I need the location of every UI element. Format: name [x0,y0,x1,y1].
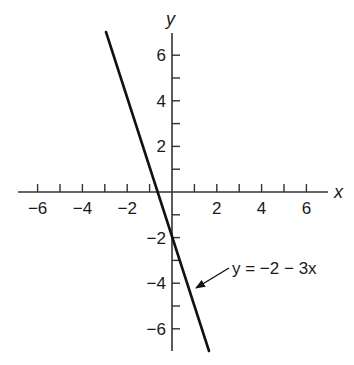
equation-label: y = −2 − 3x [232,259,317,278]
line-chart: −6 −4 −2 2 4 6 x 6 4 2 −2 −4 −6 y [0,0,354,365]
x-tick-label: 6 [302,199,311,218]
x-axis: −6 −4 −2 2 4 6 x [18,182,344,218]
y-tick-label: −2 [147,229,166,248]
y-tick-label: −4 [147,274,166,293]
x-tick-label: −2 [118,199,137,218]
x-tick-label: 2 [212,199,221,218]
x-axis-label: x [333,182,344,202]
y-tick-label: 2 [157,137,166,156]
x-tick-label: −6 [28,199,47,218]
y-tick-label: 4 [157,92,166,111]
y-axis: 6 4 2 −2 −4 −6 y [147,9,180,351]
x-tick-label: 4 [257,199,266,218]
x-tick-label: −4 [73,199,92,218]
annotation-arrow [196,268,229,288]
y-tick-label: 6 [157,46,166,65]
y-tick-label: −6 [147,320,166,339]
y-axis-label: y [164,9,176,29]
